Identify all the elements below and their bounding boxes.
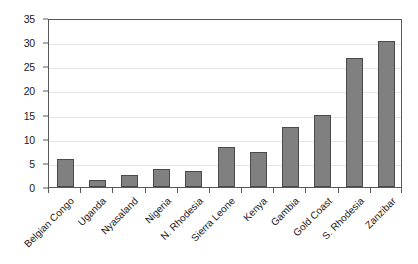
bar[interactable]	[185, 171, 202, 187]
x-tick-mark	[305, 188, 306, 193]
x-tick-mark	[177, 188, 178, 193]
plot-area	[48, 19, 402, 188]
bar[interactable]	[153, 169, 170, 187]
x-tick-mark	[401, 188, 402, 193]
bar[interactable]	[89, 180, 106, 187]
y-tick-label: 30	[24, 38, 35, 49]
x-tick-mark	[145, 188, 146, 193]
bar[interactable]	[282, 127, 299, 187]
bar[interactable]	[346, 58, 363, 187]
bar[interactable]	[314, 115, 331, 187]
y-tick-mark	[43, 91, 48, 92]
y-tick-mark	[43, 163, 48, 164]
y-tick-mark	[43, 139, 48, 140]
y-tick-label: 10	[24, 134, 35, 145]
y-tick-label: 0	[29, 183, 35, 194]
y-tick-mark	[43, 43, 48, 44]
bar[interactable]	[121, 175, 138, 187]
y-tick-mark	[43, 67, 48, 68]
bar[interactable]	[378, 41, 395, 187]
x-tick-mark	[80, 188, 81, 193]
bar[interactable]	[57, 159, 74, 187]
bars-layer	[49, 20, 401, 187]
x-tick-mark	[241, 188, 242, 193]
y-tick-label: 5	[29, 159, 35, 170]
x-tick-mark	[112, 188, 113, 193]
bar[interactable]	[250, 152, 267, 187]
x-tick-mark	[273, 188, 274, 193]
x-tick-label: Zanzibar	[363, 196, 398, 231]
x-tick-mark	[338, 188, 339, 193]
y-tick-mark	[43, 115, 48, 116]
y-tick-label: 15	[24, 110, 35, 121]
x-tick-label: Kenya	[242, 196, 269, 223]
x-tick-label: Nigeria	[143, 196, 172, 225]
x-tick-mark	[370, 188, 371, 193]
y-tick-label: 35	[24, 14, 35, 25]
y-tick-label: 25	[24, 62, 35, 73]
x-tick-mark	[209, 188, 210, 193]
x-tick-mark	[48, 188, 49, 193]
bar[interactable]	[218, 147, 235, 187]
y-tick-label: 20	[24, 86, 35, 97]
y-tick-mark	[43, 19, 48, 20]
bar-chart: 05101520253035 Belgian CongoUgandaNyasal…	[0, 0, 418, 264]
